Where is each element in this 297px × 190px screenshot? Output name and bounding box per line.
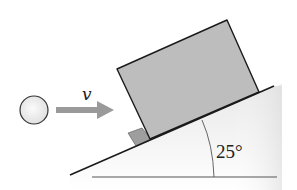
velocity-label: v [82,84,92,104]
ball [20,96,48,124]
angle-label: 25° [216,141,243,162]
incline-diagram: 25° v [0,0,297,190]
